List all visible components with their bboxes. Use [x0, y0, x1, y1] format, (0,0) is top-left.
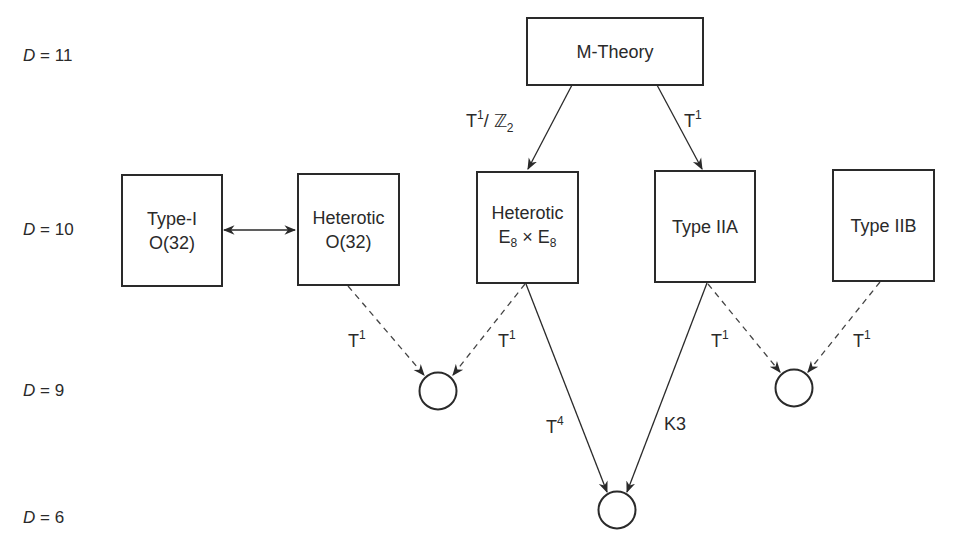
- node-type-iia: Type IIA: [654, 170, 756, 283]
- label-sup: 1: [359, 328, 366, 342]
- node-label: M-Theory: [576, 40, 653, 64]
- times-sign: ×: [522, 227, 533, 247]
- node-label: Heterotic: [312, 206, 384, 230]
- dimension-eq: =: [40, 46, 50, 65]
- edge-label-t1-z2: T1/ ℤ2: [466, 108, 513, 135]
- dimension-label-11: D = 11: [23, 46, 72, 66]
- label-base: T: [348, 331, 359, 351]
- label-sup: 1: [722, 328, 729, 342]
- e-base: E: [499, 227, 511, 247]
- node-circle-d9-left: [420, 373, 457, 410]
- edge-label-het-e8-c1: T1: [498, 328, 516, 352]
- dimension-eq: =: [40, 508, 50, 527]
- edge-m-to-het-e8: [528, 85, 572, 169]
- node-circle-d9-right: [776, 370, 813, 407]
- e-sub: 8: [511, 236, 518, 250]
- edge-label-iia-c2: T1: [711, 328, 729, 352]
- edge-label-t4: T4: [546, 414, 564, 438]
- node-sublabel: E8 × E8: [499, 225, 557, 255]
- node-label: Type IIB: [850, 214, 916, 238]
- label-base: T: [498, 331, 509, 351]
- dimension-value: 10: [55, 220, 74, 239]
- label-base: T: [711, 331, 722, 351]
- edge-label-het-o32-c1: T1: [348, 328, 366, 352]
- label-base: T: [684, 111, 695, 131]
- label-base: T: [466, 111, 477, 131]
- e-sub: 8: [550, 236, 557, 250]
- label-sub: 2: [507, 121, 514, 135]
- edge-label-k3: K3: [664, 414, 686, 435]
- edge-label-m-iia: T1: [684, 108, 702, 132]
- label-base: T: [546, 417, 557, 437]
- node-type-i-o32: Type-I O(32): [121, 174, 223, 287]
- dimension-var: D: [23, 381, 35, 400]
- label-base: T: [853, 331, 864, 351]
- label-base: K3: [664, 414, 686, 434]
- node-heterotic-o32: Heterotic O(32): [297, 173, 400, 286]
- node-label: Type IIA: [672, 215, 738, 239]
- node-m-theory: M-Theory: [526, 17, 704, 86]
- node-sublabel: O(32): [325, 230, 371, 254]
- dimension-label-10: D = 10: [23, 220, 74, 240]
- node-type-iib: Type IIB: [832, 169, 935, 282]
- dimension-eq: =: [40, 381, 50, 400]
- node-heterotic-e8xe8: Heterotic E8 × E8: [476, 171, 579, 284]
- label-slash: /: [484, 111, 489, 131]
- dimension-value: 6: [55, 508, 64, 527]
- dimension-var: D: [23, 46, 35, 65]
- e-base: E: [538, 227, 550, 247]
- dimension-var: D: [23, 508, 35, 527]
- edge-iia-to-c3: [627, 283, 707, 492]
- label-sup: 1: [864, 328, 871, 342]
- label-group: ℤ: [494, 111, 507, 131]
- node-label: Type-I: [147, 207, 197, 231]
- dimension-eq: =: [40, 220, 50, 239]
- label-sup: 1: [695, 108, 702, 122]
- edge-iib-to-c2: [808, 282, 880, 372]
- dimension-value: 11: [55, 46, 73, 65]
- dimension-label-6: D = 6: [23, 508, 64, 528]
- dimension-var: D: [23, 220, 35, 239]
- label-sup: 1: [477, 108, 484, 122]
- edge-label-iib-c2: T1: [853, 328, 871, 352]
- dimension-value: 9: [55, 381, 64, 400]
- node-sublabel: O(32): [149, 231, 195, 255]
- edge-het-e8-to-c3: [526, 284, 607, 492]
- label-sup: 4: [557, 414, 564, 428]
- label-sup: 1: [509, 328, 516, 342]
- dimension-label-9: D = 9: [23, 381, 64, 401]
- node-circle-d6: [599, 492, 636, 529]
- node-label: Heterotic: [491, 201, 563, 225]
